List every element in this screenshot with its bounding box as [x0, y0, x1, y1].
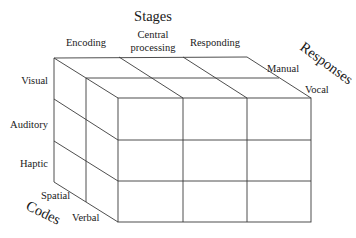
- multiple-resource-model-cube: Stages Encoding Central processing Respo…: [0, 0, 356, 238]
- codes-axis-title: Codes: [24, 197, 64, 227]
- code-label-verbal: Verbal: [72, 212, 99, 223]
- responses-axis-title: Responses: [297, 38, 356, 87]
- top-diagonal-1: [119, 57, 183, 98]
- modality-label-haptic: Haptic: [20, 158, 48, 169]
- stage-label-encoding: Encoding: [66, 37, 107, 48]
- top-diagonal-2: [183, 57, 247, 98]
- back-top-edge: [54, 57, 247, 58]
- cube-wireframe: [54, 57, 311, 222]
- stages-axis-title: Stages: [134, 8, 172, 24]
- code-label-spatial: Spatial: [41, 190, 70, 201]
- modality-label-auditory: Auditory: [10, 119, 49, 130]
- response-label-vocal: Vocal: [305, 84, 329, 95]
- stage-label-responding: Responding: [190, 37, 241, 48]
- modality-label-visual: Visual: [21, 75, 48, 86]
- response-label-manual: Manual: [267, 63, 299, 74]
- front-face: [118, 98, 311, 222]
- stage-label-central-line2: processing: [131, 42, 177, 53]
- stage-label-central-line1: Central: [138, 29, 169, 40]
